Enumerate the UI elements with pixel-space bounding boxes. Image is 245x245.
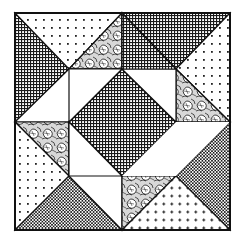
quilt-block: [0, 0, 245, 245]
